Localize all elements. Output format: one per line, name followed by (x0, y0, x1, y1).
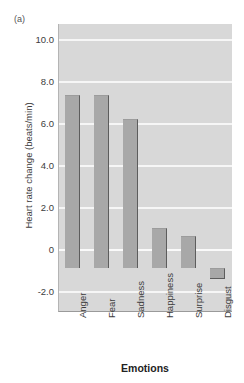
gridline (58, 207, 232, 209)
figure-panel: (a) Heart rate change (beats/min) 10.0 8… (0, 0, 244, 383)
y-tick-label: 6.0 (20, 119, 54, 129)
gridline (58, 165, 232, 167)
bar-happiness (152, 228, 167, 268)
gridline (58, 81, 232, 83)
bar-sadness (123, 119, 138, 267)
y-tick-label: 0 (20, 245, 54, 255)
gridline (58, 39, 232, 41)
x-tick-label: Happiness (164, 273, 175, 318)
gridline (58, 123, 232, 125)
x-tick-label: Fear (106, 298, 117, 318)
plot-area (58, 24, 232, 312)
y-tick-label: 8.0 (20, 77, 54, 87)
bar-fear (94, 95, 109, 268)
y-tick-label: -2.0 (20, 287, 54, 297)
y-tick-label: 10.0 (20, 35, 54, 45)
x-tick-label: Disgust (222, 286, 233, 318)
x-tick-label: Sadness (135, 281, 146, 318)
zero-gridline (58, 249, 232, 251)
bar-surprise (181, 236, 196, 268)
y-axis-tick-labels: 10.0 8.0 6.0 4.0 2.0 0 -2.0 (20, 0, 54, 383)
bar-anger (65, 95, 80, 268)
x-tick-label: Surprise (193, 283, 204, 318)
x-tick-label: Anger (77, 293, 88, 318)
y-tick-label: 4.0 (20, 161, 54, 171)
x-axis-title: Emotions (58, 362, 232, 374)
bar-disgust (210, 268, 225, 279)
y-tick-label: 2.0 (20, 203, 54, 213)
